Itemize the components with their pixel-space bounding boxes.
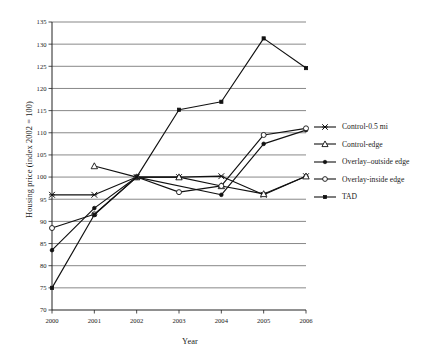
x-tick-label: 2006	[299, 317, 313, 324]
y-tick-label: 100	[37, 173, 48, 180]
y-tick-label: 90	[40, 218, 47, 225]
x-tick-label: 2004	[215, 317, 229, 324]
marker-open-circle	[304, 126, 309, 131]
legend-key-open-triangle-icon	[312, 137, 338, 151]
series-tad	[50, 37, 307, 290]
series-line	[52, 38, 306, 287]
y-tick-label: 75	[40, 284, 47, 291]
marker-open-circle	[261, 132, 266, 137]
x-tick-label: 2000	[45, 317, 59, 324]
legend-key-filled-circle-icon	[312, 155, 338, 169]
marker-filled-circle	[92, 206, 96, 210]
legend-key-x-cross-icon	[312, 120, 338, 134]
x-tick-label: 2003	[172, 317, 186, 324]
y-axis-title: Housing price (index 2002 = 100)	[25, 75, 34, 245]
x-axis-title: Year	[110, 337, 270, 346]
marker-open-circle	[50, 226, 55, 231]
marker-open-circle	[219, 183, 224, 188]
marker-filled-circle	[262, 142, 266, 146]
y-tick-label: 80	[40, 262, 47, 269]
legend-label: Overlay-inside edge	[338, 175, 404, 184]
marker-filled-square	[93, 213, 96, 216]
legend-item-overlay-inside-edge[interactable]: Overlay-inside edge	[312, 171, 432, 189]
marker-filled-circle	[50, 248, 54, 252]
y-tick-label: 125	[37, 63, 48, 70]
y-tick-label: 110	[37, 129, 47, 136]
y-tick-label: 85	[40, 240, 47, 247]
legend-key-open-circle-icon	[312, 172, 338, 186]
marker-filled-square	[50, 286, 53, 289]
marker-open-circle	[177, 190, 182, 195]
marker-open-triangle	[91, 163, 97, 169]
marker-filled-square	[177, 108, 180, 111]
y-tick-label: 135	[37, 18, 48, 25]
marker-open-circle	[323, 177, 328, 182]
y-tick-label: 95	[40, 196, 47, 203]
legend-item-control-05mi[interactable]: Control-0.5 mi	[312, 118, 432, 136]
y-tick-label: 115	[37, 107, 47, 114]
marker-filled-circle	[219, 193, 223, 197]
marker-filled-square	[220, 100, 223, 103]
legend-item-tad[interactable]: TAD	[312, 188, 432, 206]
legend-label: TAD	[338, 192, 357, 201]
marker-filled-square	[262, 37, 265, 40]
housing-price-line-chart: 7075808590951001051101151201251301352000…	[0, 0, 434, 358]
legend-label: Control-edge	[338, 140, 383, 149]
series-line	[94, 166, 306, 194]
legend-item-overlay-outside-edge[interactable]: Overlay–outside edge	[312, 153, 432, 171]
y-tick-label: 130	[37, 41, 48, 48]
series-control-edge	[91, 163, 309, 197]
y-tick-label: 105	[37, 151, 48, 158]
marker-filled-square	[135, 175, 138, 178]
chart-legend: Control-0.5 mi Control-edge Overlay–outs…	[312, 118, 432, 206]
marker-filled-square	[323, 195, 326, 198]
y-tick-label: 70	[40, 306, 47, 313]
x-tick-label: 2001	[88, 317, 101, 324]
legend-label: Control-0.5 mi	[338, 122, 388, 131]
legend-key-filled-square-icon	[312, 190, 338, 204]
y-tick-label: 120	[37, 85, 48, 92]
marker-filled-circle	[323, 160, 327, 164]
x-tick-label: 2005	[257, 317, 271, 324]
legend-item-control-edge[interactable]: Control-edge	[312, 136, 432, 154]
marker-filled-square	[304, 66, 307, 69]
legend-label: Overlay–outside edge	[338, 157, 409, 166]
x-tick-label: 2002	[130, 317, 143, 324]
